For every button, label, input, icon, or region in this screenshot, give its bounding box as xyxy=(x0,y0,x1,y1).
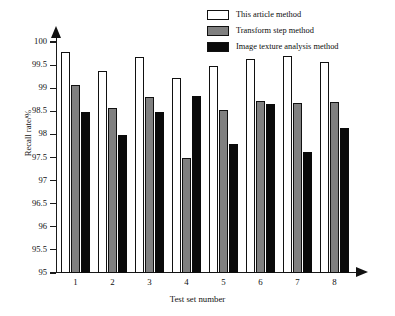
y-axis-tick xyxy=(50,157,56,158)
y-axis-tick xyxy=(50,65,56,66)
legend-swatch-series-0 xyxy=(207,10,229,20)
x-axis-tick-label: 7 xyxy=(286,277,310,287)
bar-series-1-group-5 xyxy=(219,110,228,273)
bar-series-0-group-7 xyxy=(283,56,292,273)
x-axis-title: Test set number xyxy=(0,294,395,304)
legend-label-series-1: Transform step method xyxy=(236,26,314,36)
y-axis-tick-label: 98.5 xyxy=(32,105,47,115)
y-axis-tick-label: 96.5 xyxy=(32,198,47,208)
bar-series-1-group-8 xyxy=(330,102,339,273)
y-axis-title: Recall rate/% xyxy=(23,83,33,183)
bar-series-1-group-6 xyxy=(256,101,265,273)
y-axis-tick-label: 96 xyxy=(38,221,47,231)
bar-series-0-group-8 xyxy=(320,62,329,273)
bar-series-1-group-3 xyxy=(145,97,154,273)
legend-label-series-0: This article method xyxy=(236,10,301,20)
y-axis-tick-label: 95.5 xyxy=(32,244,47,254)
bar-series-2-group-1 xyxy=(81,112,90,273)
y-axis-tick xyxy=(50,88,56,89)
bar-series-2-group-2 xyxy=(118,135,127,273)
y-axis-tick xyxy=(50,111,56,112)
plot-area xyxy=(57,42,353,273)
legend-item-this-article-method: This article method xyxy=(207,9,339,20)
y-axis-tick xyxy=(50,226,56,227)
y-axis-tick-label: 97 xyxy=(38,175,47,185)
y-axis-tick-label: 98 xyxy=(38,128,47,138)
bar-series-1-group-4 xyxy=(182,158,191,273)
y-axis-tick-label: 100 xyxy=(34,36,47,46)
bar-series-2-group-6 xyxy=(266,104,275,273)
x-axis-arrow-icon xyxy=(356,267,368,277)
y-axis-tick-label: 99.5 xyxy=(32,59,47,69)
x-axis-tick-label: 5 xyxy=(212,277,236,287)
y-axis-tick xyxy=(50,249,56,250)
bar-series-0-group-2 xyxy=(98,71,107,273)
bar-series-0-group-3 xyxy=(135,57,144,273)
bar-series-0-group-6 xyxy=(246,59,255,273)
y-axis-tick xyxy=(50,272,56,273)
y-axis-tick xyxy=(50,180,56,181)
x-axis-tick-label: 6 xyxy=(249,277,273,287)
x-axis-tick-label: 3 xyxy=(138,277,162,287)
legend-swatch-series-1 xyxy=(207,26,229,36)
bar-series-2-group-8 xyxy=(340,128,349,273)
bar-series-1-group-7 xyxy=(293,103,302,273)
x-axis-tick-label: 8 xyxy=(323,277,347,287)
x-axis-tick-label: 1 xyxy=(64,277,88,287)
y-axis-tick xyxy=(50,41,56,42)
legend-item-transform-step-method: Transform step method xyxy=(207,25,339,36)
y-axis-tick-label: 99 xyxy=(38,82,47,92)
bar-series-2-group-4 xyxy=(192,96,201,273)
bar-series-2-group-3 xyxy=(155,112,164,273)
y-axis-tick xyxy=(50,134,56,135)
y-axis-tick-label: 97.5 xyxy=(32,152,47,162)
y-axis-tick xyxy=(50,203,56,204)
bar-series-0-group-5 xyxy=(209,66,218,273)
bar-series-2-group-7 xyxy=(303,152,312,273)
bar-series-1-group-2 xyxy=(108,108,117,273)
bar-series-0-group-4 xyxy=(172,78,181,273)
x-axis-tick-label: 2 xyxy=(101,277,125,287)
y-axis-arrow-icon xyxy=(51,26,61,38)
bar-series-1-group-1 xyxy=(71,85,80,273)
y-axis-tick-label: 95 xyxy=(38,267,47,277)
recall-rate-bar-chart: This article method Transform step metho… xyxy=(0,0,395,316)
bar-series-0-group-1 xyxy=(61,52,70,273)
x-axis-tick-label: 4 xyxy=(175,277,199,287)
bar-series-2-group-5 xyxy=(229,144,238,273)
